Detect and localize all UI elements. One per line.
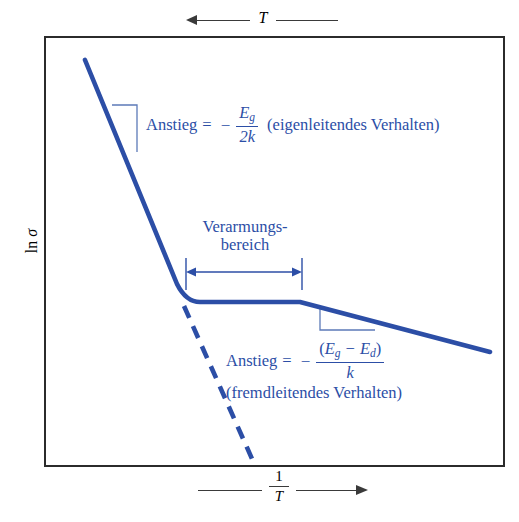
bottom-inverse-temperature-axis: 1 T — [198, 470, 370, 520]
bottom-axis-fraction-bar — [269, 486, 289, 487]
extrinsic-numerator: (Eg−Ed) — [316, 340, 384, 360]
chart-curves — [0, 0, 519, 522]
bottom-axis-numerator: 1 — [262, 468, 296, 484]
extrinsic-equation: Anstieg = − (Eg−Ed) k — [226, 340, 402, 383]
intrinsic-minus: − — [221, 116, 231, 135]
intrinsic-parenthetical: (eigenleitendes Verhalten) — [267, 116, 439, 134]
figure-root: T ln σ Anstieg = − — [0, 0, 519, 522]
bottom-axis-label: 1 T — [262, 468, 296, 505]
bottom-axis-denominator: T — [262, 488, 296, 504]
depletion-span-marker — [186, 258, 302, 290]
depletion-line-2: bereich — [184, 236, 306, 254]
intrinsic-anstieg-word: Anstieg — [146, 116, 197, 134]
intrinsic-equation: Anstieg = − Eg 2k (eigenleitendes Verhal… — [146, 104, 440, 147]
extrinsic-num-dash: − — [346, 339, 355, 358]
extrinsic-minus: − — [301, 352, 311, 371]
intrinsic-denominator: 2k — [236, 128, 258, 146]
intrinsic-equals: = — [202, 116, 211, 134]
extrinsic-num-e1-base: E — [325, 339, 335, 358]
extrinsic-anstieg-word: Anstieg — [226, 352, 277, 370]
right-arrow-icon — [356, 485, 368, 495]
extrinsic-parenthetical: (fremdleitendes Verhalten) — [226, 384, 402, 402]
extrinsic-num-close-paren: ) — [376, 339, 382, 358]
extrinsic-equals: = — [282, 352, 291, 370]
intrinsic-numerator: Eg — [236, 104, 258, 124]
intrinsic-numerator-base: E — [239, 103, 249, 122]
depletion-line-1: Verarmungs- — [184, 218, 306, 236]
intrinsic-fraction: Eg 2k — [236, 104, 258, 147]
extrinsic-fraction: (Eg−Ed) k — [316, 340, 384, 383]
intrinsic-annotation: Anstieg = − Eg 2k (eigenleitendes Verhal… — [146, 104, 440, 147]
extrinsic-annotation: Anstieg = − (Eg−Ed) k (fremdleitendes Ve… — [226, 340, 402, 402]
extrinsic-num-e1-sub: g — [335, 347, 341, 359]
intrinsic-numerator-sub: g — [249, 111, 255, 123]
intrinsic-slope-triangle — [112, 105, 137, 152]
extrinsic-denominator: k — [316, 364, 384, 382]
extrinsic-num-e2-base: E — [360, 339, 370, 358]
depletion-annotation: Verarmungs- bereich — [184, 218, 306, 255]
